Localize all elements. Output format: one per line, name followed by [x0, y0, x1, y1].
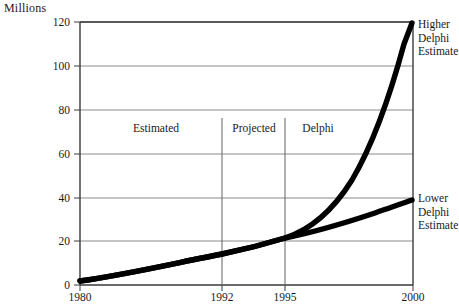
annotation-lower-line-3: Estimate: [418, 219, 458, 233]
higher-delphi-estimate-curve: [80, 23, 412, 281]
region-label-delphi: Delphi: [288, 122, 348, 134]
region-divider-lines: [222, 118, 285, 285]
y-axis-ticks: [74, 22, 80, 285]
annotation-higher-delphi-estimate: Higher Delphi Estimate: [418, 18, 458, 59]
chart-page: Millions: [0, 0, 459, 307]
y-tick-label-80: 80: [30, 104, 70, 116]
y-tick-label-100: 100: [30, 60, 70, 72]
annotation-lower-delphi-estimate: Lower Delphi Estimate: [418, 192, 458, 233]
annotation-higher-line-1: Higher: [418, 18, 458, 32]
y-tick-label-120: 120: [30, 16, 70, 28]
region-label-projected: Projected: [224, 122, 284, 134]
region-label-estimated: Estimated: [92, 122, 220, 134]
x-tick-label-1995: 1995: [255, 291, 315, 303]
y-tick-label-20: 20: [30, 235, 70, 247]
annotation-lower-line-2: Delphi: [418, 206, 458, 220]
x-tick-label-2000: 2000: [383, 291, 443, 303]
y-tick-label-0: 0: [30, 279, 70, 291]
y-tick-label-60: 60: [30, 148, 70, 160]
x-tick-label-1980: 1980: [50, 291, 110, 303]
annotation-higher-line-2: Delphi: [418, 32, 458, 46]
x-tick-label-1992: 1992: [192, 291, 252, 303]
annotation-lower-line-1: Lower: [418, 192, 458, 206]
annotation-higher-line-3: Estimate: [418, 45, 458, 59]
y-tick-label-40: 40: [30, 192, 70, 204]
